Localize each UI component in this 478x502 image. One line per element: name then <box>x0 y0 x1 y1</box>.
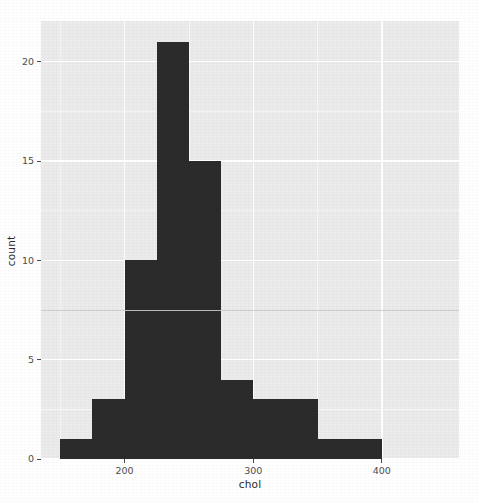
y-axis-title-text: count <box>5 236 17 267</box>
x-tick-label: 400 <box>373 463 391 476</box>
y-axis-title: count <box>2 0 20 502</box>
x-tick-label: 200 <box>116 463 134 476</box>
x-tick-label: 300 <box>244 463 262 476</box>
histogram-chart: 05101520 200300400 count chol <box>0 0 478 502</box>
x-axis-ticks: 200300400 <box>0 0 478 502</box>
x-axis-title: chol <box>41 478 459 490</box>
